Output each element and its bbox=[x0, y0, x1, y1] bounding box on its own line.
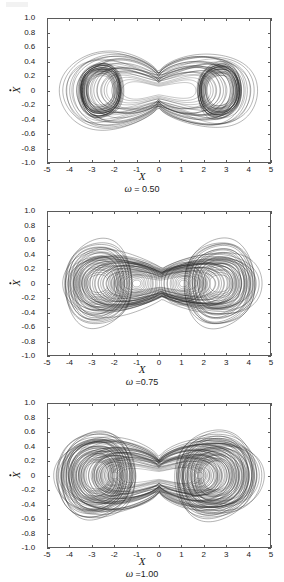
y-tick-label: 0.4 bbox=[24, 58, 35, 66]
x-tick bbox=[226, 545, 227, 548]
plot-area bbox=[47, 18, 271, 163]
trajectory-path bbox=[209, 275, 229, 292]
x-tick-top bbox=[92, 403, 93, 406]
y-tick bbox=[47, 284, 50, 285]
x-tick bbox=[204, 353, 205, 356]
y-tick bbox=[47, 255, 50, 256]
y-axis-title-text: X bbox=[10, 280, 22, 287]
y-tick-label: 1.0 bbox=[24, 399, 35, 407]
y-tick-label: 0.6 bbox=[24, 43, 35, 51]
y-tick-right bbox=[268, 418, 271, 419]
y-tick-right bbox=[268, 284, 271, 285]
x-tick bbox=[69, 545, 70, 548]
x-tick bbox=[69, 353, 70, 356]
y-tick bbox=[47, 18, 50, 19]
x-tick-top bbox=[181, 403, 182, 406]
y-tick-right bbox=[268, 476, 271, 477]
y-tick-label: -0.8 bbox=[22, 145, 35, 153]
y-tick-label: 1.0 bbox=[24, 207, 35, 215]
y-tick-label: 0 bbox=[31, 472, 35, 480]
y-tick bbox=[47, 418, 50, 419]
x-tick bbox=[69, 160, 70, 163]
y-tick bbox=[47, 105, 50, 106]
x-tick-top bbox=[271, 211, 272, 214]
x-tick bbox=[137, 353, 138, 356]
x-tick-top bbox=[92, 211, 93, 214]
y-tick bbox=[47, 76, 50, 77]
y-tick-right bbox=[268, 33, 271, 34]
x-tick-top bbox=[226, 211, 227, 214]
x-tick-top bbox=[137, 403, 138, 406]
x-tick-top bbox=[69, 403, 70, 406]
y-tick-right bbox=[268, 548, 271, 549]
y-axis-title: X bbox=[10, 472, 22, 479]
x-tick-top bbox=[226, 403, 227, 406]
x-tick-top bbox=[159, 18, 160, 21]
y-tick-right bbox=[268, 163, 271, 164]
x-tick-top bbox=[271, 18, 272, 21]
y-tick-label: 0.2 bbox=[24, 457, 35, 465]
x-tick bbox=[204, 160, 205, 163]
y-tick-right bbox=[268, 298, 271, 299]
y-tick bbox=[47, 120, 50, 121]
x-tick-top bbox=[137, 18, 138, 21]
x-tick-top bbox=[204, 18, 205, 21]
y-tick bbox=[47, 226, 50, 227]
y-tick-label: 0.8 bbox=[24, 29, 35, 37]
y-tick bbox=[47, 149, 50, 150]
y-tick-right bbox=[268, 255, 271, 256]
plot-area bbox=[47, 403, 271, 548]
x-tick-top bbox=[92, 18, 93, 21]
x-tick bbox=[271, 353, 272, 356]
y-tick bbox=[47, 476, 50, 477]
y-tick bbox=[47, 91, 50, 92]
y-tick-right bbox=[268, 47, 271, 48]
x-tick bbox=[159, 353, 160, 356]
x-tick-top bbox=[249, 403, 250, 406]
y-tick-right bbox=[268, 120, 271, 121]
plot-area bbox=[47, 211, 271, 356]
y-tick-right bbox=[268, 18, 271, 19]
x-tick bbox=[181, 160, 182, 163]
x-tick bbox=[114, 545, 115, 548]
y-tick-label: -1.0 bbox=[22, 352, 35, 360]
y-tick-right bbox=[268, 505, 271, 506]
x-tick-top bbox=[226, 18, 227, 21]
y-tick-label: -1.0 bbox=[22, 159, 35, 167]
y-tick-label: -0.8 bbox=[22, 530, 35, 538]
y-tick-label: -0.6 bbox=[22, 130, 35, 138]
y-tick-label: -0.2 bbox=[22, 294, 35, 302]
y-axis-title: X bbox=[10, 87, 22, 94]
y-tick-right bbox=[268, 327, 271, 328]
x-axis-title: X bbox=[0, 170, 284, 182]
x-tick bbox=[181, 545, 182, 548]
x-tick bbox=[249, 545, 250, 548]
y-tick-label: 0.2 bbox=[24, 72, 35, 80]
x-tick-top bbox=[181, 211, 182, 214]
x-tick-top bbox=[114, 18, 115, 21]
x-tick-top bbox=[69, 18, 70, 21]
y-tick bbox=[47, 211, 50, 212]
y-tick-right bbox=[268, 403, 271, 404]
x-tick-top bbox=[69, 211, 70, 214]
y-tick bbox=[47, 163, 50, 164]
y-tick-right bbox=[268, 76, 271, 77]
y-tick-right bbox=[268, 461, 271, 462]
y-tick-right bbox=[268, 313, 271, 314]
x-tick-top bbox=[271, 403, 272, 406]
y-tick bbox=[47, 33, 50, 34]
x-tick bbox=[137, 545, 138, 548]
x-axis-title: X bbox=[0, 363, 284, 375]
y-tick-right bbox=[268, 240, 271, 241]
x-tick bbox=[249, 160, 250, 163]
y-tick bbox=[47, 490, 50, 491]
y-axis-title-text: X bbox=[10, 472, 22, 479]
y-tick bbox=[47, 548, 50, 549]
trajectory-path bbox=[180, 280, 188, 287]
y-tick-label: -0.4 bbox=[22, 501, 35, 509]
x-tick bbox=[137, 160, 138, 163]
y-tick-label: 0.6 bbox=[24, 428, 35, 436]
y-tick-label: -0.4 bbox=[22, 116, 35, 124]
y-tick-right bbox=[268, 356, 271, 357]
x-tick bbox=[159, 160, 160, 163]
